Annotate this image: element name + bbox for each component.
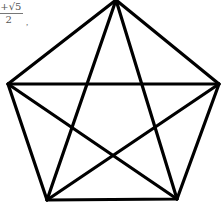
- pentagon-outline: [8, 0, 219, 200]
- diagonal-right-to-bottom-left: [47, 84, 219, 200]
- pentagon-pentagram-diagram: [0, 0, 223, 208]
- diagonal-left-to-bottom-right: [8, 84, 177, 199]
- diagonal-top-to-bottom-right: [116, 0, 177, 199]
- diagonal-top-to-bottom-left: [47, 0, 116, 200]
